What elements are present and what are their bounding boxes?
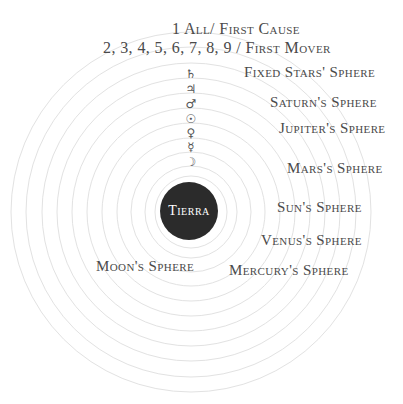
moon-symbol-icon: ☽: [186, 156, 197, 168]
sun-sphere-label: Sun's Sphere: [277, 200, 362, 215]
saturn-sphere-label: Saturn's Sphere: [270, 95, 377, 110]
moon-sphere-label: Moon's Sphere: [96, 259, 194, 274]
fixed-stars-sphere-label: Fixed Stars' Sphere: [244, 65, 375, 80]
jupiter-symbol-icon: ♃: [186, 83, 197, 95]
first-cause-label: 1 All/ First Cause: [172, 21, 300, 37]
earth-label: Tierra: [161, 204, 217, 218]
mars-symbol-icon: ♂: [186, 98, 197, 110]
sun-symbol-icon: ☉: [186, 113, 197, 125]
first-mover-label: 2, 3, 4, 5, 6, 7, 8, 9 / First Mover: [103, 40, 331, 56]
mercury-symbol-icon: ☿: [187, 141, 194, 153]
venus-sphere-label: Venus's Sphere: [261, 233, 362, 248]
mars-sphere-label: Mars's Sphere: [287, 161, 383, 176]
mercury-sphere-label: Mercury's Sphere: [229, 263, 349, 278]
venus-symbol-icon: ♀: [187, 127, 196, 139]
saturn-symbol-icon: ♄: [186, 68, 197, 80]
jupiter-sphere-label: Jupiter's Sphere: [279, 121, 386, 136]
